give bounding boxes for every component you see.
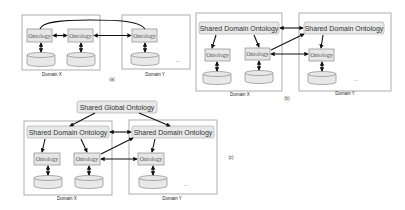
domain-y-label: Domain Y [162, 196, 182, 201]
ellipsis: ... [176, 58, 180, 63]
domain-x-label: Domain X [42, 72, 62, 77]
panel-a-label: (a) [109, 77, 115, 82]
svg-text:Shared Domain Ontology: Shared Domain Ontology [305, 25, 384, 33]
panel-a: Ontology Ontology Ontology ... [22, 15, 190, 82]
ellipsis: ... [354, 77, 358, 82]
database-icon [27, 53, 55, 67]
ontology-node: Ontology [34, 153, 60, 165]
ontology-node: Ontology [132, 29, 157, 42]
shared-global-ontology-node: Shared Global Ontology [77, 101, 157, 113]
shared-domain-ontology-node: Shared Domain Ontology [132, 126, 214, 138]
svg-text:Shared Domain Ontology: Shared Domain Ontology [134, 129, 213, 137]
database-icon [139, 176, 167, 189]
ontology-node: Ontology [27, 29, 52, 42]
svg-text:Ontology: Ontology [36, 156, 59, 162]
svg-text:Ontology: Ontology [28, 33, 51, 39]
domain-x-label: Domain X [57, 196, 77, 201]
svg-text:Ontology: Ontology [140, 156, 163, 162]
ellipsis: ... [184, 182, 188, 187]
panel-b: Shared Domain Ontology Shared Domain Ont… [196, 13, 391, 101]
shared-domain-ontology-node: Shared Domain Ontology [27, 126, 109, 138]
svg-text:Ontology: Ontology [133, 33, 156, 39]
ontology-architecture-diagram: Ontology Ontology Ontology ... [0, 0, 405, 210]
panel-b-label: (b) [284, 96, 290, 101]
ontology-node: Ontology [138, 153, 164, 165]
ontology-node: Ontology [205, 49, 230, 61]
database-icon [131, 53, 159, 66]
shared-domain-ontology-node: Shared Domain Ontology [304, 22, 384, 34]
database-icon [203, 72, 231, 85]
ontology-node: Ontology [309, 49, 334, 61]
database-icon [67, 53, 95, 67]
domain-x-label: Domain X [230, 92, 250, 97]
ontology-node: Ontology [74, 153, 100, 165]
shared-domain-ontology-node: Shared Domain Ontology [199, 22, 279, 34]
svg-text:Ontology: Ontology [310, 52, 333, 58]
domain-y-label: Domain Y [335, 91, 355, 96]
svg-text:Shared Domain Ontology: Shared Domain Ontology [29, 129, 108, 137]
ontology-node: Ontology [245, 48, 270, 60]
svg-text:Shared Domain Ontology: Shared Domain Ontology [200, 25, 279, 33]
database-icon [34, 176, 62, 189]
svg-text:Shared Global Ontology: Shared Global Ontology [80, 104, 155, 112]
database-icon [75, 176, 103, 189]
svg-text:Ontology: Ontology [206, 52, 229, 58]
database-icon [308, 72, 336, 85]
ontology-node: Ontology [68, 29, 93, 42]
panel-c-label: (c) [228, 155, 234, 160]
domain-y-label: Domain Y [145, 72, 165, 77]
svg-text:Ontology: Ontology [246, 51, 269, 57]
panel-c: Shared Global Ontology Shared Domain Ont… [24, 101, 234, 201]
svg-text:Ontology: Ontology [76, 156, 99, 162]
database-icon [245, 71, 273, 84]
svg-text:Ontology: Ontology [69, 33, 92, 39]
